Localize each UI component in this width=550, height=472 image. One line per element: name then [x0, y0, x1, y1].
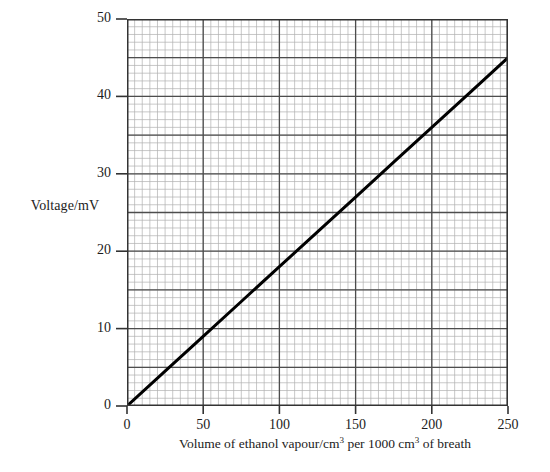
chart-figure: Voltage/mV Volume of ethanol vapour/cm3 …	[0, 0, 550, 472]
tick-marks	[0, 0, 550, 472]
